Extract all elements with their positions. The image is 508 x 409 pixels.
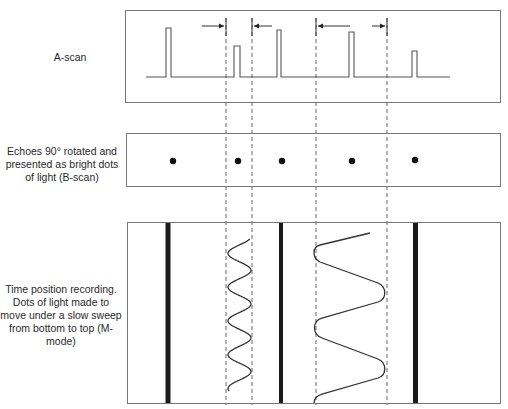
b-scan-frame: [127, 134, 501, 187]
a-scan-frame: [126, 11, 501, 103]
echo-dot: [412, 157, 418, 163]
echo-dot: [235, 158, 241, 164]
echo-dot: [279, 158, 285, 164]
echo-diagram: [0, 0, 508, 409]
static-echo-bar: [166, 223, 171, 403]
a-scan-trace: [146, 28, 450, 77]
static-echo-bar: [279, 223, 283, 403]
static-echo-bar: [413, 223, 418, 403]
echo-dot: [170, 158, 176, 164]
m-mode-trace-large: [314, 233, 385, 409]
echo-dot: [349, 158, 355, 164]
m-mode-trace-small: [228, 239, 251, 391]
guide-lines: [226, 18, 387, 405]
